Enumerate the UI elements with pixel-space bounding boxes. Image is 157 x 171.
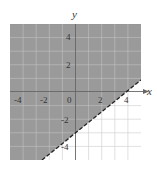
x-tick-label: -2 [40,95,48,105]
x-tick-label: -4 [14,95,22,105]
y-tick-label: -2 [61,115,69,125]
y-tick-label: 2 [66,60,71,70]
y-tick-label: -4 [61,142,69,152]
y-tick-label: 4 [66,32,71,42]
x-tick-label: 4 [124,95,129,105]
x-tick-label: 2 [98,95,103,105]
y-axis-label: y [71,8,77,20]
x-axis-label: x [146,85,152,97]
x-tick-label: 0 [67,95,72,105]
inequality-graph: y x -4 -2 0 2 4 4 2 -2 -4 [0,0,157,171]
